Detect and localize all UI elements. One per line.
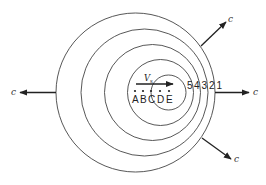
arrow-upper-right-icon (201, 22, 226, 46)
source-point-e (168, 90, 170, 92)
source-label-b: B (140, 94, 147, 105)
doppler-diagram: c c c c V s A B C D E 5 4 3 2 1 (0, 0, 266, 185)
wavefront-1 (56, 13, 215, 172)
wave-speed-label-upper-right: c (228, 14, 233, 24)
source-point-b (142, 90, 144, 92)
source-velocity-subscript: s (150, 78, 153, 84)
wavefront-4 (128, 60, 194, 126)
wavefront-label-2: 2 (209, 80, 215, 91)
source-label-c: C (148, 94, 155, 105)
source-point-a (134, 90, 136, 92)
source-point-d (159, 90, 161, 92)
source-point-c (150, 90, 152, 92)
wave-speed-label-left: c (11, 87, 16, 97)
source-label-d: D (157, 94, 164, 105)
diagram-canvas: c c c c V s A B C D E 5 4 3 2 1 (0, 0, 266, 185)
wavefront-label-4: 4 (194, 80, 200, 91)
wavefront-label-5: 5 (187, 80, 193, 91)
source-label-e: E (166, 94, 173, 105)
arrow-lower-right-icon (202, 138, 231, 159)
wavefront-2 (81, 29, 208, 156)
wave-speed-label-lower-right: c (234, 154, 239, 164)
wave-speed-label-right: c (253, 87, 258, 97)
wavefront-label-3: 3 (202, 80, 208, 91)
wavefront-label-1: 1 (217, 80, 223, 91)
source-label-a: A (132, 94, 139, 105)
